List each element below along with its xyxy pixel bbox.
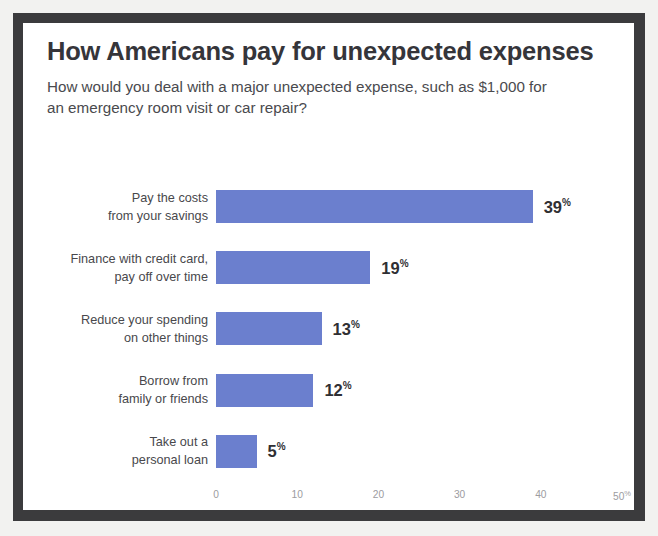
bar[interactable] — [216, 190, 533, 223]
bar-value-label: 12% — [324, 380, 351, 400]
x-axis-tick-label: 30 — [454, 489, 465, 500]
percent-sign: % — [624, 489, 631, 498]
percent-sign: % — [562, 197, 571, 208]
bar-row: Take out a personal loan5% — [23, 435, 634, 468]
bar-fill — [216, 374, 313, 407]
x-axis-tick-label: 20 — [373, 489, 384, 500]
bar-fill — [216, 251, 370, 284]
bar-value-label: 19% — [381, 258, 408, 278]
bar-category-label: Borrow from family or friends — [28, 372, 208, 408]
x-axis-tick-label: 10 — [292, 489, 303, 500]
bar-value-label: 39% — [544, 197, 571, 217]
bar[interactable] — [216, 435, 257, 468]
photo-frame: How Americans pay for unexpected expense… — [13, 13, 645, 521]
bar-category-label: Finance with credit card, pay off over t… — [28, 250, 208, 286]
bar-row: Finance with credit card, pay off over t… — [23, 251, 634, 284]
percent-sign: % — [400, 258, 409, 269]
bar-value-label: 5% — [268, 442, 286, 462]
bar[interactable] — [216, 374, 313, 407]
bar-chart-plot: Pay the costs from your savings39%Financ… — [23, 23, 634, 510]
bar-row: Borrow from family or friends12% — [23, 374, 634, 407]
chart-card: How Americans pay for unexpected expense… — [23, 23, 634, 510]
bar-fill — [216, 312, 322, 345]
bar-fill — [216, 190, 533, 223]
bar-category-label: Take out a personal loan — [28, 433, 208, 469]
x-axis-tick-label: 50% — [613, 489, 631, 502]
bar-row: Reduce your spending on other things13% — [23, 312, 634, 345]
bar[interactable] — [216, 312, 322, 345]
bar-value-label: 13% — [333, 319, 360, 339]
percent-sign: % — [351, 319, 360, 330]
bar-category-label: Pay the costs from your savings — [28, 188, 208, 224]
bar-fill — [216, 435, 257, 468]
bar-category-label: Reduce your spending on other things — [28, 311, 208, 347]
percent-sign: % — [277, 442, 286, 453]
x-axis: 01020304050% — [23, 489, 634, 505]
x-axis-tick-label: 0 — [213, 489, 219, 500]
percent-sign: % — [343, 380, 352, 391]
bar[interactable] — [216, 251, 370, 284]
bar-row: Pay the costs from your savings39% — [23, 190, 634, 223]
x-axis-tick-label: 40 — [535, 489, 546, 500]
